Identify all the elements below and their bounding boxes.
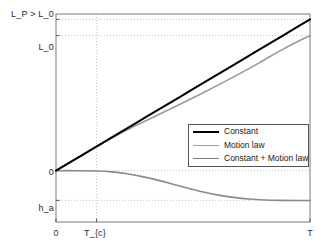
legend-swatch-constant <box>193 131 219 133</box>
legend-label-constant-plus-motion-law: Constant + Motion law <box>224 154 308 163</box>
legend-label-constant: Constant <box>224 127 258 136</box>
data-series-group <box>56 19 310 200</box>
y-tick-label-zero: 0 <box>0 167 54 177</box>
x-tick-label-t: T <box>300 228 320 238</box>
chart-legend: Constant Motion law Constant + Motion la… <box>188 124 309 167</box>
chart-figure: L_P > L_0 L_0 0 h_a 0 T_{c} T Constant M… <box>0 0 326 250</box>
y-tick-label-l0: L_0 <box>0 42 54 52</box>
legend-item-motion-law: Motion law <box>189 139 308 153</box>
y-tick-label-ha: h_a <box>0 203 54 213</box>
legend-item-constant-plus-motion-law: Constant + Motion law <box>189 152 308 166</box>
axis-ticks <box>56 19 310 222</box>
legend-swatch-constant-plus-motion-law <box>193 158 219 159</box>
legend-label-motion-law: Motion law <box>224 141 265 150</box>
y-tick-label-lp: L_P > L_0 <box>0 9 54 19</box>
x-tick-label-zero: 0 <box>46 228 66 238</box>
series-constant-motion-law <box>56 171 310 201</box>
x-tick-label-tc: T_{c} <box>74 228 116 238</box>
legend-item-constant: Constant <box>189 125 308 139</box>
legend-swatch-motion-law <box>193 145 219 146</box>
gridlines <box>56 14 310 222</box>
axis-lines <box>56 14 310 222</box>
